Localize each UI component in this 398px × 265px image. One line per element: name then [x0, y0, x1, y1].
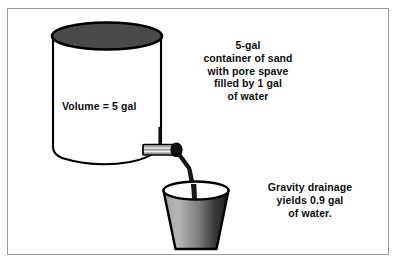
cylinder-top-sand-surface	[52, 23, 162, 50]
label-container-note: 5-gal container of sand with pore spave …	[186, 39, 310, 103]
figure-root: Volume = 5 gal 5-gal container of sand w…	[0, 0, 398, 265]
label-volume: Volume = 5 gal	[62, 100, 136, 113]
collection-bucket	[164, 182, 229, 250]
sand-container-cylinder	[52, 23, 162, 165]
valve-outlet-pipe	[178, 153, 189, 168]
label-drainage-note: Gravity drainage yields 0.9 gal of water…	[245, 181, 375, 219]
